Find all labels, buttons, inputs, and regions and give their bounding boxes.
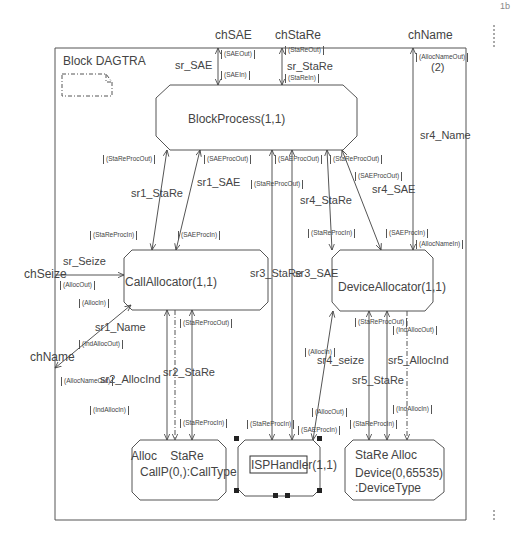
channel-chSAE[interactable]: chSAE bbox=[215, 29, 252, 41]
signal-list: (IndAllocIn) bbox=[393, 405, 432, 414]
signal-list: (AllocOut) bbox=[312, 408, 347, 417]
signal-list: (SAEProcIn) bbox=[386, 229, 428, 238]
signal-list: (SAEProcIn) bbox=[178, 231, 220, 240]
route-sr4_seize[interactable]: sr4_seize bbox=[317, 355, 364, 366]
signal-list: (StaReProcIn) bbox=[90, 231, 137, 240]
device-gates: StaRe Alloc bbox=[355, 447, 417, 463]
device-allocator-label[interactable]: DeviceAllocator(1,1) bbox=[338, 279, 446, 295]
signal-list: (AllocIn) bbox=[79, 299, 109, 308]
multiplicity: (2) bbox=[431, 62, 444, 73]
route-sr4_StaRe[interactable]: sr4_StaRe bbox=[300, 195, 352, 206]
isphandler-label[interactable]: ISPHandler(1,1) bbox=[251, 457, 337, 473]
signal-list: (AllocNameIn) bbox=[416, 240, 463, 249]
signal-list: (StaReProcIn) bbox=[308, 229, 355, 238]
channel-chName-left[interactable]: chName bbox=[30, 351, 75, 363]
signal-list: (AllocNameOut) bbox=[61, 377, 113, 386]
route-sr_Seize[interactable]: sr_Seize bbox=[63, 256, 106, 267]
signal-list: (IndAllocOut) bbox=[79, 340, 123, 349]
signal-list: (AllocIn) bbox=[305, 348, 335, 357]
corner-mark: 1b bbox=[500, 2, 510, 11]
route-sr1_SAE[interactable]: sr1_SAE bbox=[197, 177, 240, 188]
signal-list: (StaReProcOut) bbox=[330, 155, 382, 164]
block-process-label[interactable]: BlockProcess(1,1) bbox=[188, 111, 285, 127]
channel-chSeize[interactable]: chSeize bbox=[24, 268, 67, 280]
signal-list: (SAEProcOut) bbox=[275, 155, 322, 164]
route-sr3_SAE[interactable]: sr3_SAE bbox=[295, 268, 338, 279]
route-sr5_AllocInd[interactable]: sr5_AllocInd bbox=[388, 355, 449, 366]
route-sr1_Name[interactable]: sr1_Name bbox=[95, 322, 146, 333]
signal-list: (StaReIn) bbox=[285, 74, 319, 83]
signal-list: (AllocNameOut) bbox=[416, 53, 468, 62]
signal-list: (IndAllocOut) bbox=[393, 326, 437, 335]
device-label-2[interactable]: :DeviceType bbox=[355, 480, 421, 496]
route-sr4_Name[interactable]: sr4_Name bbox=[420, 130, 471, 141]
signal-list: (StaReProcIn) bbox=[350, 420, 397, 429]
channel-chStaRe[interactable]: chStaRe bbox=[275, 29, 321, 41]
signal-list: (SAEProcIn) bbox=[298, 426, 340, 435]
call-allocator-label[interactable]: CallAllocator(1,1) bbox=[125, 274, 217, 290]
signal-list: (StaReProcOut) bbox=[103, 155, 155, 164]
signal-list: (SAEOut) bbox=[221, 50, 255, 59]
callp-gates: Alloc StaRe bbox=[131, 448, 204, 464]
page-symbol-icon bbox=[62, 74, 112, 96]
signal-list: (SAEProcOut) bbox=[204, 155, 251, 164]
signal-list: (SAEProcOut) bbox=[355, 172, 402, 181]
route-sr4_SAE[interactable]: sr4_SAE bbox=[372, 184, 415, 195]
route-sr_SAE[interactable]: sr_SAE bbox=[175, 60, 212, 71]
device-label-1[interactable]: Device(0,65535) bbox=[355, 465, 443, 481]
signal-list: (SAEIn) bbox=[221, 71, 250, 80]
route-sr1_StaRe[interactable]: sr1_StaRe bbox=[131, 188, 183, 199]
signal-list: (StaReProcIn) bbox=[247, 420, 294, 429]
route-sr5_StaRe[interactable]: sr5_StaRe bbox=[352, 375, 404, 386]
block-title: Block DAGTRA bbox=[63, 55, 146, 67]
signal-list: (StaReProcOut) bbox=[251, 180, 303, 189]
route-sr_StaRe[interactable]: sr_StaRe bbox=[287, 61, 333, 72]
route-sr2_StaRe[interactable]: sr2_StaRe bbox=[163, 367, 215, 378]
signal-list: (StaReProcOut) bbox=[180, 319, 232, 328]
callp-label[interactable]: CallP(0,):CallType bbox=[140, 464, 237, 480]
signal-list: (IndAllocIn) bbox=[90, 406, 129, 415]
channel-chName-top[interactable]: chName bbox=[408, 29, 453, 41]
signal-list: (StaReProcIn) bbox=[180, 419, 227, 428]
signal-list: (AllocOut) bbox=[60, 281, 95, 290]
signal-list: (StaReOut) bbox=[285, 46, 324, 55]
